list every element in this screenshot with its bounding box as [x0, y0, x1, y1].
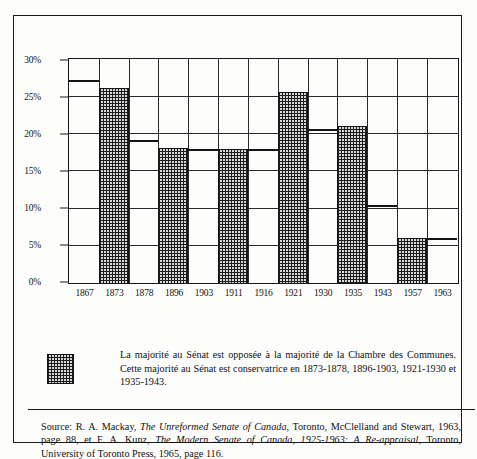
- bar-1930: [308, 129, 338, 283]
- x-axis-label-1903: 1903: [195, 288, 213, 298]
- y-axis-tick-10: [60, 208, 68, 209]
- y-axis-tick-25: [60, 96, 68, 97]
- source-title-1: The Unreformed Senate of Canada: [140, 421, 287, 432]
- x-axis-label-1916: 1916: [254, 288, 272, 298]
- section-divider: [28, 409, 475, 410]
- y-axis-label-10pct: 10%: [7, 203, 41, 213]
- x-axis-label-1963: 1963: [433, 288, 451, 298]
- bar-1963: [427, 238, 457, 283]
- bar-1957: [397, 238, 427, 283]
- legend-text: La majorité au Sénat est opposée à la ma…: [120, 348, 456, 389]
- plot-area: [68, 58, 459, 284]
- bar-1921: [278, 92, 308, 283]
- source-citation: Source: R. A. Mackay, The Unreformed Sen…: [41, 420, 461, 459]
- y-axis-label-30pct: 30%: [7, 55, 41, 65]
- bar-1916: [248, 149, 278, 283]
- x-axis-label-1921: 1921: [284, 288, 302, 298]
- y-axis-tick-15: [60, 171, 68, 172]
- source-title-2: The Modern Senate of Canada, 1925-1963: …: [155, 434, 418, 445]
- x-axis-label-1867: 1867: [75, 288, 93, 298]
- y-axis-label-25pct: 25%: [7, 92, 41, 102]
- legend: La majorité au Sénat est opposée à la ma…: [44, 342, 464, 404]
- bar-1903: [188, 149, 218, 283]
- y-axis-tick-0: [60, 282, 68, 283]
- x-axis-label-1896: 1896: [165, 288, 183, 298]
- source-label: Source:: [41, 421, 72, 432]
- bar-1867: [69, 80, 99, 283]
- x-axis-label-1911: 1911: [225, 288, 243, 298]
- x-axis-label-1943: 1943: [374, 288, 392, 298]
- y-axis-label-20pct: 20%: [7, 129, 41, 139]
- bar-1878: [129, 140, 159, 283]
- bar-1935: [337, 126, 367, 283]
- bar-1911: [218, 149, 248, 283]
- chart-page: 0%5%10%15%20%25%30% 18671873187818961903…: [0, 0, 477, 459]
- y-axis-label-0pct: 0%: [7, 277, 41, 287]
- x-axis-label-1957: 1957: [404, 288, 422, 298]
- x-axis-label-1935: 1935: [344, 288, 362, 298]
- y-axis-label-5pct: 5%: [7, 240, 41, 250]
- bar-1873: [99, 88, 129, 283]
- bar-1896: [158, 148, 188, 283]
- y-axis-tick-30: [60, 59, 68, 60]
- bar-1943: [367, 205, 397, 283]
- y-axis-tick-5: [60, 245, 68, 246]
- outer-frame: 0%5%10%15%20%25%30% 18671873187818961903…: [13, 15, 462, 443]
- x-axis-label-1878: 1878: [135, 288, 153, 298]
- plot-wrapper: 0%5%10%15%20%25%30% 18671873187818961903…: [56, 58, 459, 303]
- checkered-pattern-swatch: [47, 354, 74, 384]
- y-axis-label-15pct: 15%: [7, 166, 41, 176]
- y-axis-tick-20: [60, 133, 68, 134]
- source-part-1: R. A. Mackay,: [76, 421, 140, 432]
- x-axis-label-1873: 1873: [105, 288, 123, 298]
- x-axis-label-1930: 1930: [314, 288, 332, 298]
